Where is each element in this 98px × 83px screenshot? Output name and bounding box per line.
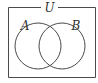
set-b-label: B [71,19,81,33]
set-a-label: A [20,19,30,33]
universe-label: U [44,1,55,15]
venn-diagram: U A B [0,0,98,83]
